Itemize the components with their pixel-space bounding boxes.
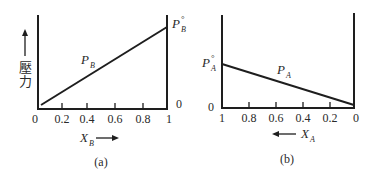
panel-a-tick-2: 0.4 [80,112,95,126]
pb-pure-label-sub: B [181,25,186,34]
pb-curve-label-sub: B [90,61,95,70]
panel-b: 1 0.8 0.6 0.4 0.2 0 0 P A ° P A X A (b) [201,13,359,166]
panel-a-tick-5: 1 [166,112,172,126]
pb-pure-label: P [171,16,180,31]
panel-a: 0 0.2 0.4 0.6 0.8 1 0 P B ° P B 壓 力 壓力 X… [0,0,186,169]
xb-axis-label: X [79,130,89,145]
xb-axis-label-sub: B [89,139,94,148]
panel-a-tick-3: 0.6 [108,112,123,126]
pa-curve-label: P [276,62,285,77]
panel-a-tick-1: 0.2 [55,112,70,126]
panel-b-tick-5: 0 [353,111,359,125]
panel-a-caption: (a) [94,155,107,169]
pb-pure-label-sup: ° [181,14,185,24]
arrow-left-icon [272,131,296,137]
arrow-right-icon [96,135,119,141]
pa-pure-label-sub: A [210,64,216,73]
pb-curve-label: P [80,52,89,67]
panel-b-tick-2: 0.6 [269,111,284,125]
pb-line [41,27,167,105]
panel-b-caption: (b) [280,152,294,166]
arrow-up-icon [22,29,28,56]
panel-a-right-zero: 0 [176,97,182,111]
xa-axis-label-sub: A [309,135,315,144]
xa-axis-label: X [300,126,310,141]
panel-b-tick-3: 0.4 [296,111,311,125]
panel-b-tick-0: 1 [219,111,225,125]
pa-curve-label-sub: A [285,71,291,80]
panel-b-left-zero: 0 [208,100,214,114]
panel-b-tick-4: 0.2 [323,111,338,125]
vapor-pressure-diagram: 0 0.2 0.4 0.6 0.8 1 0 P B ° P B 壓 力 壓力 X… [0,0,376,179]
panel-a-tick-4: 0.8 [136,112,151,126]
pa-pure-label: P [201,55,210,70]
y-axis-label-char2: 力 [19,74,32,89]
y-axis-label-char1: 壓 [19,60,32,75]
panel-a-tick-0: 0 [32,112,38,126]
panel-b-tick-1: 0.8 [242,111,257,125]
pa-pure-label-sup: ° [211,53,215,63]
